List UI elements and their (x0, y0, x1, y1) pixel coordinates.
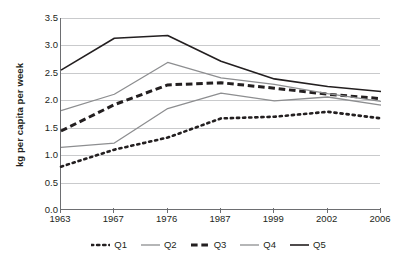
y-axis-title: kg per capita per week (14, 0, 30, 40)
legend-label: Q1 (114, 240, 127, 250)
y-axis-title-text: kg per capita per week (14, 40, 25, 190)
x-axis-tick-label: 2002 (304, 213, 350, 224)
x-axis-tick-label: 1987 (197, 213, 243, 224)
x-axis-tick-labels: 1963196719761987199920022006 (60, 213, 380, 233)
legend-label: Q2 (164, 240, 177, 250)
y-axis-tick-label: 0.5 (32, 178, 58, 188)
x-axis-tick-label: 1963 (37, 213, 83, 224)
y-axis-tick-label: 3.0 (32, 40, 58, 50)
plot-area (60, 18, 380, 210)
chart-legend: Q1Q2Q3Q4Q5 (0, 236, 417, 254)
legend-swatch-q5-icon (290, 240, 309, 250)
series-lines (61, 18, 381, 210)
legend-swatch-q4-icon (240, 240, 259, 250)
legend-swatch-q3-icon (191, 240, 210, 250)
line-chart: kg per capita per week 3.53.02.52.01.51.… (0, 0, 417, 260)
legend-item-q5[interactable]: Q5 (290, 240, 326, 250)
y-axis-tick-label: 3.5 (32, 13, 58, 23)
x-axis-tick-label: 1967 (90, 213, 136, 224)
legend-item-q4[interactable]: Q4 (240, 240, 276, 250)
y-axis-tick-label: 2.0 (32, 95, 58, 105)
legend-label: Q5 (313, 240, 326, 250)
y-axis-tick-label: 2.5 (32, 68, 58, 78)
legend-item-q3[interactable]: Q3 (191, 240, 227, 250)
x-axis-tick-label: 1976 (144, 213, 190, 224)
x-axis-tick-label: 2006 (357, 213, 403, 224)
series-line-q1 (61, 112, 381, 167)
series-line-q2 (61, 93, 381, 147)
legend-label: Q4 (263, 240, 276, 250)
legend-item-q2[interactable]: Q2 (141, 240, 177, 250)
legend-item-q1[interactable]: Q1 (91, 240, 127, 250)
legend-label: Q3 (214, 240, 227, 250)
y-axis-tick-label: 1.5 (32, 123, 58, 133)
legend-swatch-q2-icon (141, 240, 160, 250)
series-line-q3 (61, 83, 381, 131)
legend-swatch-q1-icon (91, 240, 110, 250)
y-axis-tick-label: 1.0 (32, 150, 58, 160)
x-axis-tick-label: 1999 (250, 213, 296, 224)
